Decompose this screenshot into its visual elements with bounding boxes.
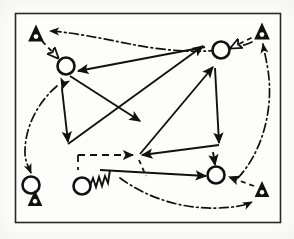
solid-edge-rightlower-to-junction: [142, 145, 219, 155]
solid-edges: [62, 46, 219, 176]
zigzag-edge: [90, 170, 110, 187]
triangle-node-t2[interactable]: [254, 23, 270, 40]
dashdot-edge-bottom-arc: [120, 178, 252, 208]
dashdot-edge-left-arc: [25, 86, 57, 173]
circle-node-c2[interactable]: [213, 42, 230, 59]
circle-node-c4[interactable]: [74, 178, 91, 195]
zigzag-path: [90, 170, 110, 187]
circle-node-c5[interactable]: [208, 167, 225, 184]
circle-node-c1[interactable]: [58, 58, 75, 75]
solid-edge-zigzag-run-to-c5: [100, 170, 206, 176]
solid-edge-left-spine-hook: [62, 86, 63, 89]
solid-edge-right-vertical: [215, 68, 219, 143]
solid-edge-junction-to-upperright: [140, 67, 213, 154]
dashed-edge-t1-c1: [42, 41, 58, 58]
solid-edge-stub-into-c5: [213, 152, 215, 165]
network-diagram-svg: [0, 0, 294, 239]
figure-root: [0, 0, 294, 239]
triangle-node-t1[interactable]: [28, 25, 44, 42]
circle-node-c3[interactable]: [23, 177, 40, 194]
dashed-edge-junction-stub: [139, 160, 146, 176]
triangle-node-t4[interactable]: [255, 181, 270, 197]
dashed-edge-t4-c5: [229, 177, 254, 186]
solid-edge-left-spine: [62, 89, 68, 142]
border-frame: [16, 14, 281, 223]
dashdot-edge-right-arc: [238, 44, 270, 178]
